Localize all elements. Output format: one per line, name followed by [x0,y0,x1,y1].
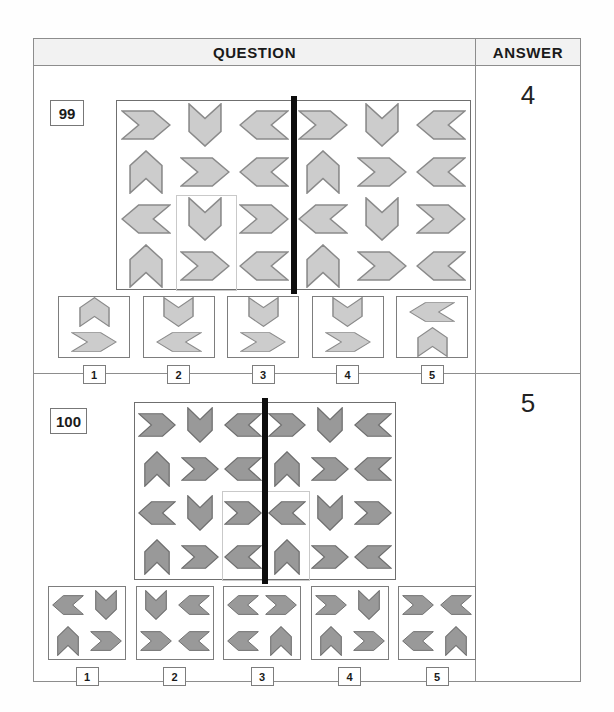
chevron-down-icon [365,197,399,241]
chevron-left-icon [416,251,466,281]
matrix-cell-r3-c1 [117,195,176,242]
chevron-up-icon [270,626,292,656]
option-number-3[interactable]: 3 [251,667,274,686]
option-shape-cell [59,327,129,357]
chevron-left-icon [409,302,455,322]
option-shape-cell [350,623,388,659]
option-figure-100-1[interactable] [48,586,126,660]
chevron-right-icon [180,251,230,281]
option-99-3[interactable]: 3 [227,296,299,384]
option-figure-100-4[interactable] [311,586,389,660]
chevron-up-icon [129,244,163,288]
chevron-right-icon [239,204,289,234]
chevron-left-icon [121,204,171,234]
option-99-2[interactable]: 2 [143,296,215,384]
chevron-left-icon [178,631,210,651]
chevron-right-icon [180,157,230,187]
matrix-cell-r3-c2 [176,195,235,242]
chevron-right-icon [416,204,466,234]
chevron-up-icon [306,150,340,194]
option-shape-cell [313,327,383,357]
chevron-left-icon [52,595,84,615]
option-shape-cell [312,587,350,623]
question-99-content: 99 12345 [34,66,476,373]
option-number-1[interactable]: 1 [76,667,99,686]
option-99-1[interactable]: 1 [58,296,130,384]
option-number-2[interactable]: 2 [163,667,186,686]
option-number-5[interactable]: 5 [426,667,449,686]
option-shapes [137,587,213,659]
question-row-100: 100 12345 5 [34,374,580,681]
chevron-left-icon [227,595,259,615]
matrix-cell-r4-c1 [117,242,176,289]
chevron-right-icon [121,110,171,140]
chevron-left-icon [402,631,434,651]
option-shape-cell [175,587,213,623]
option-figure-99-1[interactable] [58,296,130,358]
matrix-cell-r1-c3 [222,403,265,447]
matrix-cell-r4-c3 [222,535,265,579]
option-shape-cell [87,587,125,623]
chevron-left-icon [224,413,262,437]
chevron-down-icon [248,297,279,327]
matrix-cell-r3-c5 [308,491,351,535]
option-shape-cell [49,623,87,659]
option-shape-cell [87,623,125,659]
matrix-cell-r2-c5 [308,447,351,491]
matrix-cell-r1-c6 [411,101,470,148]
matrix-cell-r2-c6 [352,447,395,491]
chevron-down-icon [188,103,222,147]
chevron-up-icon [274,539,300,575]
option-100-4[interactable]: 4 [311,586,389,686]
chevron-up-icon [144,451,170,487]
chevron-right-icon [354,501,392,525]
matrix-cell-r3-c6 [352,491,395,535]
matrix-cell-r1-c5 [308,403,351,447]
option-shape-cell [312,623,350,659]
chevron-down-icon [145,590,167,620]
chevron-right-icon [181,457,219,481]
matrix-cell-r3-c3 [222,491,265,535]
option-figure-99-3[interactable] [227,296,299,358]
option-figure-99-2[interactable] [143,296,215,358]
matrix-cell-r2-c3 [235,148,294,195]
option-shape-cell [228,297,298,327]
chevron-left-icon [178,595,210,615]
option-99-5[interactable]: 5 [396,296,468,384]
option-shape-cell [144,327,214,357]
chevron-left-icon [354,545,392,569]
option-shapes [397,297,467,357]
matrix-cell-r1-c2 [176,101,235,148]
option-figure-100-3[interactable] [223,586,301,660]
question-row-99: 99 12345 4 [34,66,580,374]
chevron-down-icon [95,590,117,620]
option-shape-cell [175,623,213,659]
matrix-cell-r2-c1 [117,148,176,195]
matrix-cell-r4-c2 [178,535,221,579]
option-100-3[interactable]: 3 [223,586,301,686]
option-100-1[interactable]: 1 [48,586,126,686]
chevron-right-icon [140,631,172,651]
option-figure-100-2[interactable] [136,586,214,660]
option-100-2[interactable]: 2 [136,586,214,686]
option-figure-99-5[interactable] [396,296,468,358]
matrix-cell-r3-c2 [178,491,221,535]
option-99-4[interactable]: 4 [312,296,384,384]
option-shapes [312,587,388,659]
option-number-4[interactable]: 4 [338,667,361,686]
chevron-right-icon [265,595,297,615]
option-shape-cell [437,623,475,659]
chevron-left-icon [138,501,176,525]
matrix-cell-r3-c6 [411,195,470,242]
matrix-cell-r4-c2 [176,242,235,289]
chevron-right-icon [240,332,286,352]
matrix-cell-r1-c3 [235,101,294,148]
option-shapes [399,587,475,659]
chevron-right-icon [90,631,122,651]
chevron-down-icon [163,297,194,327]
option-figure-100-5[interactable] [398,586,476,660]
option-100-5[interactable]: 5 [398,586,476,686]
matrix-cell-r3-c4 [265,491,308,535]
chevron-left-icon [239,110,289,140]
option-figure-99-4[interactable] [312,296,384,358]
